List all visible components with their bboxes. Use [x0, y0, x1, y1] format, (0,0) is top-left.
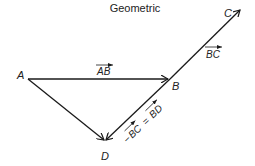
vector-ad-arrow: [28, 79, 104, 140]
vector-diagram: Geometric A B C D AB BC − BC = BD: [0, 0, 255, 166]
point-label-d: D: [101, 150, 109, 162]
point-label-c: C: [224, 7, 232, 19]
svg-text:AB: AB: [96, 66, 111, 77]
point-label-a: A: [16, 69, 24, 81]
vector-bc-arrow: [170, 10, 240, 79]
vector-label-ab: AB: [96, 65, 113, 77]
svg-text:BD: BD: [147, 103, 165, 121]
diagram-title: Geometric: [110, 2, 161, 14]
point-label-b: B: [172, 80, 179, 92]
vector-label-bc: BC: [205, 47, 222, 60]
svg-text:BC: BC: [206, 49, 221, 60]
svg-text:=: =: [140, 115, 152, 127]
vector-label-neg-bc-equals-bd: − BC = BD: [120, 100, 166, 145]
